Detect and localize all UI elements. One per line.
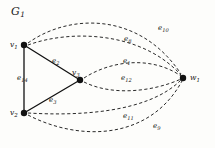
edge-label-e8-subscript: 8 bbox=[128, 38, 131, 44]
node-label-w1: w1 bbox=[190, 73, 200, 83]
edge-label-e14: e14 bbox=[17, 74, 28, 83]
edge-label-e2-subscript: 2 bbox=[56, 60, 59, 66]
node-label-w1-subscript: 1 bbox=[196, 77, 200, 83]
edge-label-e11: e11 bbox=[123, 112, 134, 121]
edge-label-e12-subscript: 12 bbox=[125, 77, 132, 83]
graph-node-v2 bbox=[21, 110, 27, 116]
node-label-v3-subscript: 3 bbox=[76, 72, 80, 78]
graph-figure: G1 v1v2v3w1e14e2e3e10e8e1e12e11e9 bbox=[0, 0, 215, 148]
edge-label-e12: e12 bbox=[121, 74, 132, 83]
dashed-edge-e8 bbox=[28, 36, 181, 75]
edge-label-e10-subscript: 10 bbox=[162, 27, 169, 33]
nodes-layer bbox=[21, 42, 186, 116]
node-label-v2-subscript: 2 bbox=[14, 112, 18, 118]
edge-label-e1-subscript: 1 bbox=[127, 60, 130, 66]
edge-label-e8: e8 bbox=[124, 35, 131, 44]
edge-label-e9-subscript: 9 bbox=[157, 125, 160, 131]
edge-label-e3-subscript: 3 bbox=[53, 99, 56, 105]
dashed-edges-layer bbox=[28, 23, 182, 132]
dashed-edge-e1 bbox=[84, 63, 181, 78]
dashed-edge-e12 bbox=[84, 79, 181, 91]
graph-node-w1 bbox=[180, 75, 186, 81]
edge-label-e9: e9 bbox=[153, 122, 160, 131]
node-label-v2: v2 bbox=[10, 108, 18, 118]
edge-label-e10: e10 bbox=[158, 24, 169, 33]
edge-label-e2: e2 bbox=[52, 57, 59, 66]
node-label-v3: v3 bbox=[72, 68, 80, 78]
edge-label-e14-subscript: 14 bbox=[21, 77, 28, 83]
node-label-v1-subscript: 1 bbox=[14, 44, 18, 50]
edge-label-e3: e3 bbox=[49, 96, 56, 105]
graph-canvas bbox=[0, 0, 215, 148]
graph-node-v3 bbox=[77, 77, 83, 83]
graph-node-v1 bbox=[21, 42, 27, 48]
node-label-v1: v1 bbox=[10, 40, 18, 50]
edge-label-e1: e1 bbox=[123, 57, 130, 66]
edge-label-e11-subscript: 11 bbox=[127, 115, 134, 121]
